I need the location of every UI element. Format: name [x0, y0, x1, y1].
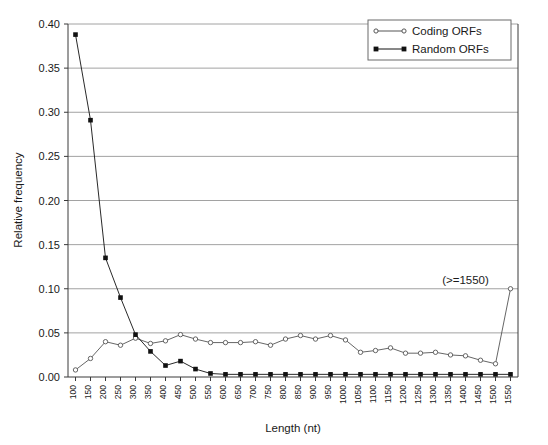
x-tick-label: 1050	[353, 385, 363, 404]
data-point	[328, 372, 333, 377]
data-point	[493, 372, 498, 377]
data-point	[313, 372, 318, 377]
data-point	[298, 333, 302, 337]
data-point	[208, 371, 213, 376]
data-point	[208, 340, 212, 344]
data-point	[103, 340, 107, 344]
filled-square-icon	[374, 47, 379, 52]
x-tick-label: 1450	[473, 385, 483, 404]
data-point	[223, 340, 227, 344]
data-point	[403, 372, 408, 377]
x-tick-label: 250	[113, 385, 123, 399]
data-point	[163, 339, 167, 343]
x-tick-label: 150	[83, 385, 93, 399]
data-point	[343, 372, 348, 377]
y-tick-label: 0.05	[39, 327, 60, 339]
annotations-layer: (>=1550)	[442, 274, 489, 286]
x-tick-label: 1400	[458, 385, 468, 404]
open-circle-icon	[374, 29, 378, 33]
y-tick-label: 0.20	[39, 195, 60, 207]
data-point	[418, 351, 422, 355]
x-tick-label: 1200	[398, 385, 408, 404]
data-point	[118, 295, 123, 300]
x-tick-label: 450	[173, 385, 183, 399]
data-point	[298, 372, 303, 377]
data-point	[73, 32, 78, 37]
x-tick-label: 850	[293, 385, 303, 399]
data-point	[448, 372, 453, 377]
filled-square-icon	[402, 47, 407, 52]
data-point	[463, 354, 467, 358]
data-point	[178, 359, 183, 364]
x-tick-label: 650	[233, 385, 243, 399]
x-tick-label: 950	[323, 385, 333, 399]
x-tick-label: 500	[188, 385, 198, 399]
x-tick-label: 1500	[488, 385, 498, 404]
data-point	[433, 372, 438, 377]
data-point	[388, 372, 393, 377]
legend-label-coding-orfs: Coding ORFs	[412, 25, 482, 37]
data-point	[373, 348, 377, 352]
x-axis-title: Length (nt)	[265, 422, 321, 434]
data-point	[118, 343, 122, 347]
data-point	[253, 340, 257, 344]
data-point	[343, 338, 347, 342]
data-point	[313, 337, 317, 341]
x-tick-label: 1150	[383, 385, 393, 404]
x-tick-label: 1550	[503, 385, 513, 404]
y-tick-label: 0.15	[39, 239, 60, 251]
data-point	[373, 372, 378, 377]
y-tick-label: 0.00	[39, 371, 60, 383]
x-tick-label: 300	[128, 385, 138, 399]
data-point	[193, 367, 198, 372]
data-point	[103, 256, 108, 261]
data-point	[223, 372, 228, 377]
data-point	[508, 372, 513, 377]
data-point	[148, 349, 153, 354]
x-tick-label: 1000	[338, 385, 348, 404]
x-tick-label: 600	[218, 385, 228, 399]
y-tick-label: 0.35	[39, 62, 60, 74]
y-tick-label: 0.25	[39, 150, 60, 162]
data-point	[493, 362, 497, 366]
x-tick-label: 1350	[443, 385, 453, 404]
data-point	[418, 372, 423, 377]
data-point	[448, 353, 452, 357]
x-tick-label: 800	[278, 385, 288, 399]
x-tick-label: 1100	[368, 385, 378, 404]
x-tick-label: 100	[68, 385, 78, 399]
data-point	[478, 372, 483, 377]
data-point	[88, 356, 92, 360]
x-tick-label: 350	[143, 385, 153, 399]
data-point	[253, 372, 258, 377]
open-circle-icon	[402, 29, 406, 33]
data-point	[388, 346, 392, 350]
y-tick-label: 0.40	[39, 18, 60, 30]
chart-annotation: (>=1550)	[442, 274, 489, 286]
data-point	[328, 333, 332, 337]
data-point	[163, 363, 168, 368]
y-tick-label: 0.30	[39, 106, 60, 118]
data-point	[148, 341, 152, 345]
data-point	[478, 358, 482, 362]
relative-frequency-line-chart: 0.000.050.100.150.200.250.300.350.40 100…	[0, 0, 548, 445]
data-point	[88, 118, 93, 123]
chart-figure: 0.000.050.100.150.200.250.300.350.40 100…	[0, 0, 548, 445]
x-tick-label: 200	[98, 385, 108, 399]
data-point	[238, 340, 242, 344]
data-point	[178, 332, 182, 336]
data-point	[193, 337, 197, 341]
data-point	[283, 337, 287, 341]
y-tick-label: 0.10	[39, 283, 60, 295]
x-tick-label: 700	[248, 385, 258, 399]
data-point	[268, 343, 272, 347]
legend-label-random-orfs: Random ORFs	[412, 43, 489, 55]
data-point	[238, 372, 243, 377]
x-tick-label: 900	[308, 385, 318, 399]
data-point	[358, 372, 363, 377]
x-tick-label: 750	[263, 385, 273, 399]
data-point	[508, 287, 512, 291]
data-point	[283, 372, 288, 377]
data-point	[433, 350, 437, 354]
data-point	[73, 368, 77, 372]
